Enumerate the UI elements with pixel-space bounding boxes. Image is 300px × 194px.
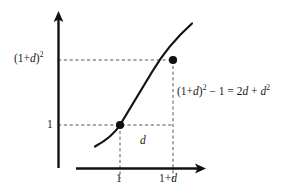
- eq-t4: +: [248, 85, 260, 97]
- y-upper-prefix: (1+: [14, 52, 30, 64]
- x-tick-variable: d: [171, 172, 177, 184]
- guide-lines: [58, 60, 173, 179]
- point-1: [116, 121, 124, 129]
- y-axis-label-upper: (1+d)2: [14, 53, 43, 65]
- eq-t3: − 1 = 2: [206, 85, 242, 97]
- x-axis-tick-label-one-plus-d: 1+d: [159, 173, 177, 185]
- gap-variable: d: [140, 134, 146, 146]
- point-1-plus-d: [169, 56, 177, 64]
- x-axis-tick-label-one: 1: [116, 173, 122, 185]
- x-axis: [76, 164, 206, 174]
- eq-e2: 2: [266, 83, 270, 92]
- y-axis-label-lower: 1: [47, 119, 53, 131]
- figure-container: (1+d)2 1 1 1+d d (1+d)2 − 1 = 2d + d2: [0, 0, 300, 194]
- increment-equation: (1+d)2 − 1 = 2d + d2: [177, 86, 270, 98]
- eq-t1: (1+: [177, 85, 193, 97]
- x-tick-prefix: 1+: [159, 172, 171, 184]
- y-axis: [54, 11, 64, 168]
- y-upper-exponent: 2: [40, 50, 44, 59]
- gap-label-d: d: [140, 135, 146, 147]
